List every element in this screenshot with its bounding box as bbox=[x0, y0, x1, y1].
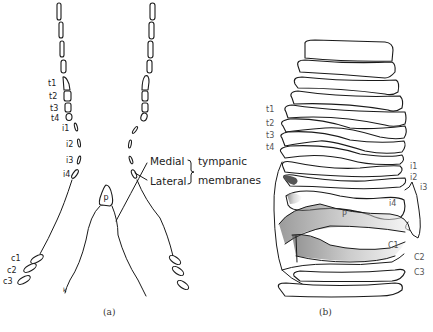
label-tympanic: tympanic bbox=[198, 155, 247, 167]
right-bronchus-wall bbox=[137, 180, 173, 256]
label-medial: Medial bbox=[150, 155, 184, 167]
label-c2: c2 bbox=[7, 266, 17, 275]
label-b-c1: C1 bbox=[388, 241, 399, 250]
label-b-c3: C3 bbox=[414, 268, 425, 277]
label-b-p: P bbox=[342, 210, 347, 219]
label-b-t2: t2 bbox=[266, 119, 274, 128]
label-lateral: Lateral bbox=[150, 175, 187, 187]
label-b-t3: t3 bbox=[266, 131, 274, 140]
label-b-i4: i4 bbox=[389, 199, 396, 208]
label-t4: t4 bbox=[51, 114, 59, 123]
label-k: k bbox=[63, 286, 67, 293]
label-t3: t3 bbox=[50, 104, 58, 113]
caption-b: (b) bbox=[319, 307, 332, 317]
panel-b: i1 i2 i3 i4 P C1 C2 C3 t1 t2 t3 t4 (b) bbox=[266, 40, 427, 317]
panel-a: p t1 t2 t3 t4 i1 i2 i3 i4 c1 c2 c3 k Med… bbox=[3, 3, 261, 317]
label-membranes: membranes bbox=[198, 174, 261, 186]
left-ring-column bbox=[57, 3, 81, 179]
brace bbox=[188, 160, 194, 184]
label-c3: c3 bbox=[3, 277, 13, 286]
label-b-t4: t4 bbox=[266, 143, 274, 152]
left-bronchus-wall bbox=[40, 180, 72, 254]
label-b-t1: t1 bbox=[266, 105, 274, 114]
right-ring-column bbox=[128, 3, 155, 179]
left-caudal-rings bbox=[16, 253, 44, 286]
label-t1: t1 bbox=[48, 79, 56, 88]
label-b-c2: C2 bbox=[414, 253, 425, 262]
label-i2: i2 bbox=[66, 140, 73, 149]
label-b-i1: i1 bbox=[410, 162, 417, 171]
right-caudal-rings bbox=[168, 254, 190, 291]
p-label: p bbox=[104, 193, 109, 202]
label-b-i3: i3 bbox=[420, 183, 427, 192]
label-c1: c1 bbox=[11, 254, 21, 263]
label-i4: i4 bbox=[63, 170, 70, 179]
caption-a: (a) bbox=[103, 307, 115, 317]
left-inner-wall bbox=[65, 206, 100, 293]
label-i3: i3 bbox=[66, 156, 73, 165]
label-i1: i1 bbox=[62, 124, 69, 133]
label-t2: t2 bbox=[49, 92, 57, 101]
label-b-i2: i2 bbox=[410, 173, 417, 182]
figure-canvas: p t1 t2 t3 t4 i1 i2 i3 i4 c1 c2 c3 k Med… bbox=[0, 0, 433, 332]
